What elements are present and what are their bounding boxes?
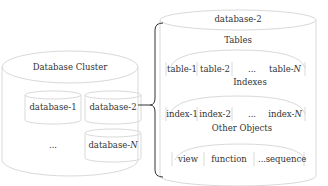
detail-title: database-2: [214, 14, 261, 24]
database-2-label: database-2: [89, 102, 136, 112]
table-item: table-1: [167, 64, 197, 74]
table-item: table-N: [269, 64, 301, 74]
index-item: index-N: [268, 109, 302, 119]
indexes-title: Indexes: [233, 77, 267, 87]
cluster-title: Database Cluster: [33, 62, 108, 72]
table-item: ...: [248, 64, 256, 74]
brace: [138, 23, 163, 177]
index-item: ...: [248, 109, 256, 119]
database-n-label: database-N: [88, 140, 137, 150]
other-item: sequence: [266, 154, 307, 164]
other-objects-title: Other Objects: [212, 123, 272, 133]
other-item: view: [178, 154, 198, 164]
ellipsis-label: ...: [49, 140, 57, 150]
index-item: index-2: [199, 109, 231, 119]
index-item: index-1: [166, 109, 198, 119]
database-1-label: database-1: [29, 102, 76, 112]
tables-title: Tables: [224, 35, 252, 45]
table-item: table-2: [200, 64, 230, 74]
other-item: function: [211, 154, 247, 164]
